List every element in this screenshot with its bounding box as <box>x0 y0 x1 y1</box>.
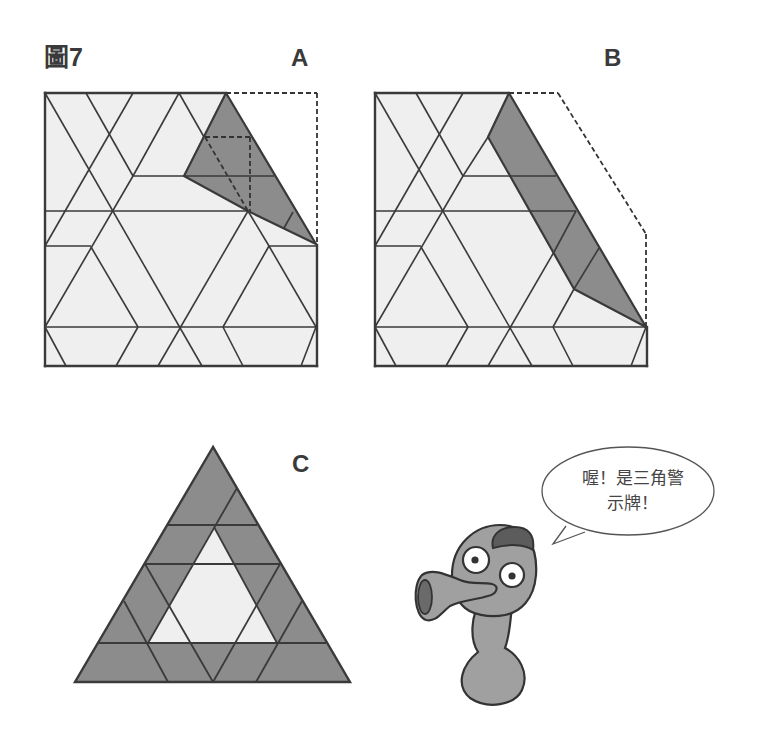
speech-line-2: 示牌！ <box>560 491 705 516</box>
character-figure <box>416 525 537 705</box>
left-pupil <box>471 556 478 563</box>
speech-bubble-text: 喔！是三角警 示牌！ <box>560 466 705 516</box>
bubble-tail-fill <box>553 526 585 544</box>
right-pupil <box>508 572 515 579</box>
horn-opening <box>418 580 432 614</box>
speech-line-1: 喔！是三角警 <box>560 466 705 491</box>
